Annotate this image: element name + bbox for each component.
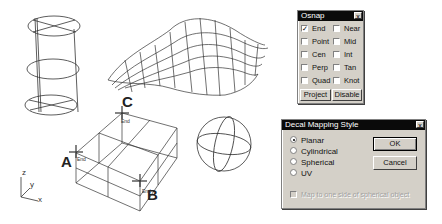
box-wireframe[interactable] xyxy=(76,113,177,211)
cylinder-wireframe[interactable] xyxy=(25,16,80,115)
snap-tag-b: End xyxy=(142,188,151,194)
map-one-side-checkbox xyxy=(290,191,297,198)
surface-wireframe[interactable] xyxy=(108,18,268,96)
osnap-quad-checkbox[interactable] xyxy=(301,77,308,84)
radio-planar[interactable]: Planar xyxy=(290,136,324,146)
osnap-title: Osnap xyxy=(301,11,325,20)
radio-cylindrical[interactable]: Cylindrical xyxy=(290,147,338,157)
snap-marker-b xyxy=(132,174,147,187)
osnap-quad[interactable]: Quad xyxy=(301,76,330,85)
osnap-mid-checkbox[interactable] xyxy=(333,38,340,45)
project-button[interactable]: Project xyxy=(300,89,331,101)
osnap-int-checkbox[interactable] xyxy=(333,51,340,58)
osnap-tan-checkbox[interactable] xyxy=(333,64,340,71)
snap-tag-a: End xyxy=(77,156,86,162)
axis-y-label: y xyxy=(30,180,34,189)
decal-close-button[interactable]: x xyxy=(416,121,424,128)
osnap-point[interactable]: Point xyxy=(301,37,329,46)
osnap-mid[interactable]: Mid xyxy=(333,37,356,46)
osnap-near-checkbox[interactable] xyxy=(333,25,340,32)
axis-x-label: x xyxy=(38,195,42,204)
osnap-near[interactable]: Near xyxy=(333,24,360,33)
radio-spherical[interactable]: Spherical xyxy=(290,158,334,168)
point-label-a: A xyxy=(61,153,72,170)
disable-button[interactable]: Disable xyxy=(332,89,362,101)
point-label-c: C xyxy=(122,93,133,110)
decal-titlebar[interactable]: Decal Mapping Style x xyxy=(282,120,425,130)
osnap-int[interactable]: Int xyxy=(333,50,352,59)
osnap-perp[interactable]: Perp xyxy=(301,63,328,72)
radio-spherical-dot[interactable] xyxy=(290,158,297,165)
osnap-dialog: Osnap x ✓End Near Point Mid Cen Int Perp… xyxy=(297,10,364,104)
radio-uv-dot[interactable] xyxy=(290,169,297,176)
sphere-wireframe[interactable] xyxy=(196,115,252,174)
osnap-knot[interactable]: Knot xyxy=(333,76,359,85)
osnap-tan[interactable]: Tan xyxy=(333,63,356,72)
cancel-button[interactable]: Cancel xyxy=(373,156,417,170)
snap-tag-c: End xyxy=(121,118,130,124)
osnap-end-checkbox[interactable]: ✓ xyxy=(301,25,308,32)
radio-cylindrical-dot[interactable] xyxy=(290,147,297,154)
osnap-close-button[interactable]: x xyxy=(354,12,362,19)
osnap-titlebar[interactable]: Osnap x xyxy=(298,11,363,21)
osnap-knot-checkbox[interactable] xyxy=(333,77,340,84)
radio-uv[interactable]: UV xyxy=(290,169,312,179)
radio-planar-dot[interactable] xyxy=(290,136,297,143)
osnap-end[interactable]: ✓End xyxy=(301,24,325,33)
decal-title: Decal Mapping Style xyxy=(285,120,358,129)
axis-z-label: z xyxy=(22,168,26,177)
osnap-point-checkbox[interactable] xyxy=(301,38,308,45)
ok-button[interactable]: OK xyxy=(373,137,417,151)
osnap-cen[interactable]: Cen xyxy=(301,50,326,59)
map-one-side-option: Map to one side of spherical object xyxy=(290,190,409,200)
osnap-perp-checkbox[interactable] xyxy=(301,64,308,71)
decal-mapping-dialog: Decal Mapping Style x Planar Cylindrical… xyxy=(281,119,426,209)
osnap-cen-checkbox[interactable] xyxy=(301,51,308,58)
